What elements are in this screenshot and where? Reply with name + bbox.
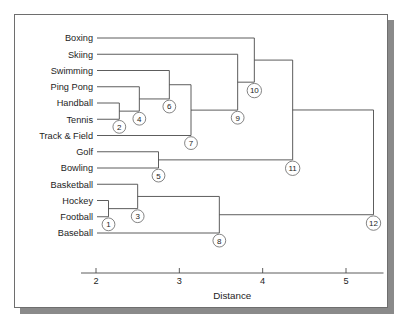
x-axis-tick-label-5: 5 [343,276,348,286]
cluster-node-label-5: 5 [156,172,161,181]
leaf-label-golf: Golf [76,147,93,157]
leaf-label-handball: Handball [57,98,93,108]
cluster-node-label-6: 6 [167,102,172,111]
leaf-label-swimming: Swimming [51,66,93,76]
cluster-node-label-11: 11 [289,164,298,173]
x-axis-tick-label-4: 4 [260,276,265,286]
leaf-label-basketball: Basketball [51,180,93,190]
cluster-node-label-1: 1 [106,220,111,229]
cluster-node-label-9: 9 [235,114,240,123]
leaf-label-football: Football [60,212,93,222]
dendrogram-chart: BoxingSkiingSwimmingPing PongHandballTen… [15,15,387,307]
leaf-label-hockey: Hockey [62,196,93,206]
cluster-node-label-10: 10 [250,86,259,95]
cluster-node-label-8: 8 [217,237,222,246]
cluster-node-label-12: 12 [369,219,378,228]
x-axis-tick-label-3: 3 [177,276,182,286]
x-axis-title: Distance [213,290,252,301]
leaf-label-ping-pong: Ping Pong [51,82,93,92]
cluster-node-label-7: 7 [189,139,194,148]
cluster-node-label-4: 4 [137,115,142,124]
leaf-label-bowling: Bowling [61,163,93,173]
x-axis-tick-label-2: 2 [93,276,98,286]
leaf-label-baseball: Baseball [58,228,93,238]
figure-frame: BoxingSkiingSwimmingPing PongHandballTen… [14,14,388,308]
leaf-label-boxing: Boxing [65,33,93,43]
cluster-node-label-3: 3 [135,212,140,221]
cluster-node-label-2: 2 [117,123,122,132]
leaf-label-track-field: Track & Field [39,131,93,141]
leaf-label-skiing: Skiing [68,50,93,60]
leaf-label-tennis: Tennis [66,115,93,125]
